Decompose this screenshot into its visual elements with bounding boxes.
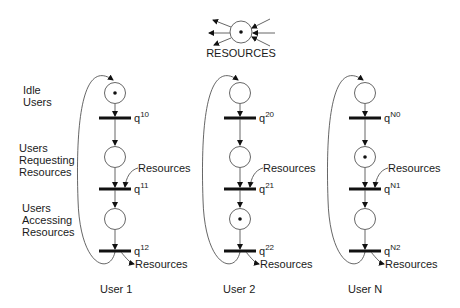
resource-out-label: Resources xyxy=(135,258,188,270)
petri-net-diagram: RESOURCES Idle Users Users Requesting Re… xyxy=(0,0,460,308)
transition-label: q11 xyxy=(134,181,149,195)
resources-label: RESOURCES xyxy=(206,47,276,59)
loop-arc xyxy=(77,76,115,264)
token-icon xyxy=(239,30,243,34)
loop-arc xyxy=(202,76,240,264)
place-idle xyxy=(230,83,251,104)
user-column-1: q10 Resources q11 q12 Resources User 1 xyxy=(77,76,191,295)
user-column-2: q20 Resources q21 q22 Resources User 2 xyxy=(202,76,316,295)
transition-label: q21 xyxy=(259,181,275,195)
place-requesting xyxy=(105,147,126,168)
place-requesting xyxy=(230,147,251,168)
token-icon xyxy=(363,155,367,159)
row-label-idle-1: Idle xyxy=(23,84,41,96)
transition-label: qN2 xyxy=(384,243,401,257)
row-label-requesting-1: Users xyxy=(19,142,48,154)
resource-in-label: Resources xyxy=(138,162,191,174)
place-accessing xyxy=(355,209,376,230)
resource-out-arc xyxy=(121,252,134,264)
place-idle xyxy=(355,83,376,104)
resource-in-label: Resources xyxy=(388,162,441,174)
transition-label: q22 xyxy=(259,243,275,257)
resources-place: RESOURCES xyxy=(206,19,276,59)
arrow-in-icon xyxy=(252,37,270,46)
token-icon xyxy=(238,217,242,221)
transition-label: qN1 xyxy=(384,181,401,195)
user-label: User 2 xyxy=(223,283,255,295)
place-accessing xyxy=(105,209,126,230)
transition-label: qN0 xyxy=(384,110,401,124)
resource-out-label: Resources xyxy=(385,258,438,270)
transition-label: q10 xyxy=(134,110,150,124)
arrow-out-icon xyxy=(214,38,231,45)
row-label-accessing-1: Users xyxy=(22,202,51,214)
row-labels: Idle Users Users Requesting Resources Us… xyxy=(19,84,75,238)
token-icon xyxy=(113,91,117,95)
transition-label: q12 xyxy=(134,243,150,257)
resource-out-arc xyxy=(371,252,384,264)
arrow-out-icon xyxy=(213,20,231,27)
resource-in-label: Resources xyxy=(263,162,316,174)
transition-label: q20 xyxy=(259,110,275,124)
row-label-requesting-2: Requesting xyxy=(19,154,75,166)
user-label: User 1 xyxy=(100,283,132,295)
row-label-requesting-3: Resources xyxy=(19,166,72,178)
row-label-accessing-3: Resources xyxy=(22,226,75,238)
arrow-in-icon xyxy=(252,19,270,28)
user-label: User N xyxy=(348,283,382,295)
loop-arc xyxy=(327,76,365,264)
row-label-accessing-2: Accessing xyxy=(22,214,72,226)
resource-out-arc xyxy=(246,252,259,264)
resource-out-label: Resources xyxy=(260,258,313,270)
row-label-idle-2: Users xyxy=(23,96,52,108)
user-column-n: qN0 Resources qN1 qN2 Resources User N xyxy=(327,76,441,295)
